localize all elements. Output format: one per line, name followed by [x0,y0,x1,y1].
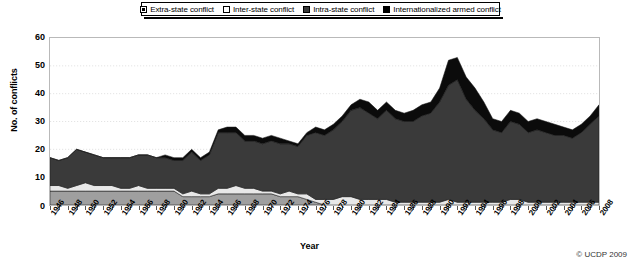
y-tick-label: 10 [1,173,45,182]
legend-swatch-inter-state-icon [223,6,230,13]
x-axis-title: Year [300,241,319,251]
x-tick-label: 2008 [598,198,615,217]
y-axis: No. of conflicts 6050403020100 [0,0,45,271]
legend-label-internationalized: Internationalized armed conflict [393,5,501,14]
y-tick-label: 60 [1,33,45,42]
stacked-area-chart [50,38,599,205]
area-series-intra-state-conflict [50,80,599,202]
y-axis-title: No. of conflicts [9,60,19,140]
legend-swatch-extra-state-icon [140,6,147,13]
legend-item-internationalized: Internationalized armed conflict [383,5,501,14]
y-tick-label: 50 [1,61,45,70]
plot-area [49,37,600,206]
y-tick-label: 40 [1,89,45,98]
legend-swatch-internationalized-icon [383,6,390,13]
legend-item-extra-state: Extra-state conflict [140,5,214,14]
legend-item-inter-state: Inter-state conflict [223,5,294,14]
y-tick-label: 0 [1,202,45,211]
copyright-credit: © UCDP 2009 [576,250,627,259]
legend-label-intra-state: Intra-state conflict [313,5,374,14]
y-tick-label: 30 [1,117,45,126]
legend-label-inter-state: Inter-state conflict [233,5,294,14]
legend-item-intra-state: Intra-state conflict [303,5,374,14]
y-tick-label: 20 [1,145,45,154]
legend-swatch-intra-state-icon [303,6,310,13]
chart-legend: Extra-state conflict Inter-state conflic… [141,2,500,16]
x-axis: 1946194819501952195419561958196019621964… [49,206,600,266]
legend-label-extra-state: Extra-state conflict [150,5,214,14]
